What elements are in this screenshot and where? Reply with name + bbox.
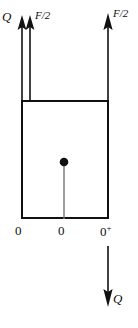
force-arrow-right-icon xyxy=(103,13,112,100)
axis-origin-right-superscript: + xyxy=(107,223,112,233)
axis-origin-label-right: 0+ xyxy=(100,224,112,238)
shear-label-top-left: Q xyxy=(2,10,11,23)
axis-origin-label-left: 0 xyxy=(15,224,22,237)
loading-diagram-figure: Q F/2 F/2 Q 0 0 0+ xyxy=(0,0,138,328)
centroid-dot xyxy=(60,158,69,167)
force-arrow-left-icon xyxy=(26,15,35,100)
shear-arrow-left-inner-icon xyxy=(18,15,27,100)
force-label-right: F/2 xyxy=(113,8,128,19)
axis-origin-label-mid: 0 xyxy=(58,224,65,237)
shear-arrow-bottom-icon xyxy=(103,246,112,307)
shear-label-bottom-right: Q xyxy=(113,292,122,305)
force-label-left: F/2 xyxy=(35,10,50,21)
diagram-canvas xyxy=(0,0,138,328)
